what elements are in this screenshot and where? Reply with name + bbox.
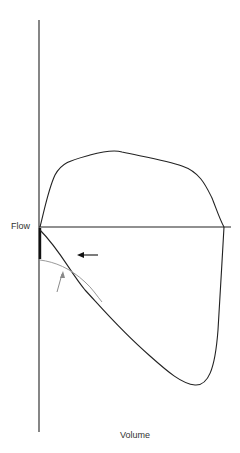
expiratory-curve xyxy=(40,151,224,227)
inspiratory-limb xyxy=(40,227,224,385)
flow-axis-label: Flow xyxy=(11,221,30,231)
gray-curve xyxy=(40,260,102,302)
flow-volume-diagram xyxy=(0,0,240,453)
volume-axis-label: Volume xyxy=(120,430,150,440)
black-arrow xyxy=(77,252,98,258)
gray-arrow xyxy=(57,271,65,292)
